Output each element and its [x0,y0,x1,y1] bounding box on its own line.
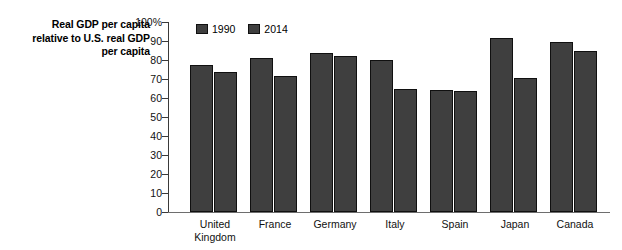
y-tick-0 [162,212,168,213]
bar-2014-germany [334,56,357,212]
y-tick-80 [162,60,168,61]
y-tick-30 [162,155,168,156]
bar-1990-france [250,58,273,212]
bar-chart: Real GDP per capita relative to U.S. rea… [0,0,622,250]
y-tick-label-30: 30 [128,150,162,160]
y-tick-label-0: 0 [128,207,162,217]
y-tick-50 [162,117,168,118]
y-tick-60 [162,98,168,99]
x-axis-label: Canada [527,218,622,231]
y-axis-line [168,22,169,212]
x-axis-label-line: Canada [527,218,622,231]
y-tick-label-50: 50 [128,112,162,122]
y-tick-label-20: 20 [128,169,162,179]
bar-2014-spain [454,91,477,212]
y-tick-20 [162,174,168,175]
y-tick-label-70: 70 [128,74,162,84]
bar-1990-canada [550,42,573,212]
bar-1990-united-kingdom [190,65,213,212]
y-tick-label-80: 80 [128,55,162,65]
x-axis-label-line: Kingdom [167,231,263,244]
y-tick-40 [162,136,168,137]
y-tick-label-90: 90 [128,36,162,46]
y-tick-label-60: 60 [128,93,162,103]
bar-2014-japan [514,78,537,212]
y-tick-100 [162,22,168,23]
bar-1990-germany [310,53,333,212]
y-tick-70 [162,79,168,80]
bar-1990-spain [430,90,453,212]
y-tick-10 [162,193,168,194]
bar-2014-united-kingdom [214,72,237,212]
bar-2014-italy [394,89,417,212]
x-axis-line [168,212,610,213]
y-tick-label-10: 10 [128,188,162,198]
bar-1990-italy [370,60,393,212]
plot-area: 0102030405060708090100% UnitedKingdomFra… [168,22,610,212]
y-tick-label-100: 100% [128,17,162,27]
bar-1990-japan [490,38,513,212]
y-tick-label-40: 40 [128,131,162,141]
bar-2014-canada [574,51,597,213]
y-tick-90 [162,41,168,42]
bar-2014-france [274,76,297,212]
